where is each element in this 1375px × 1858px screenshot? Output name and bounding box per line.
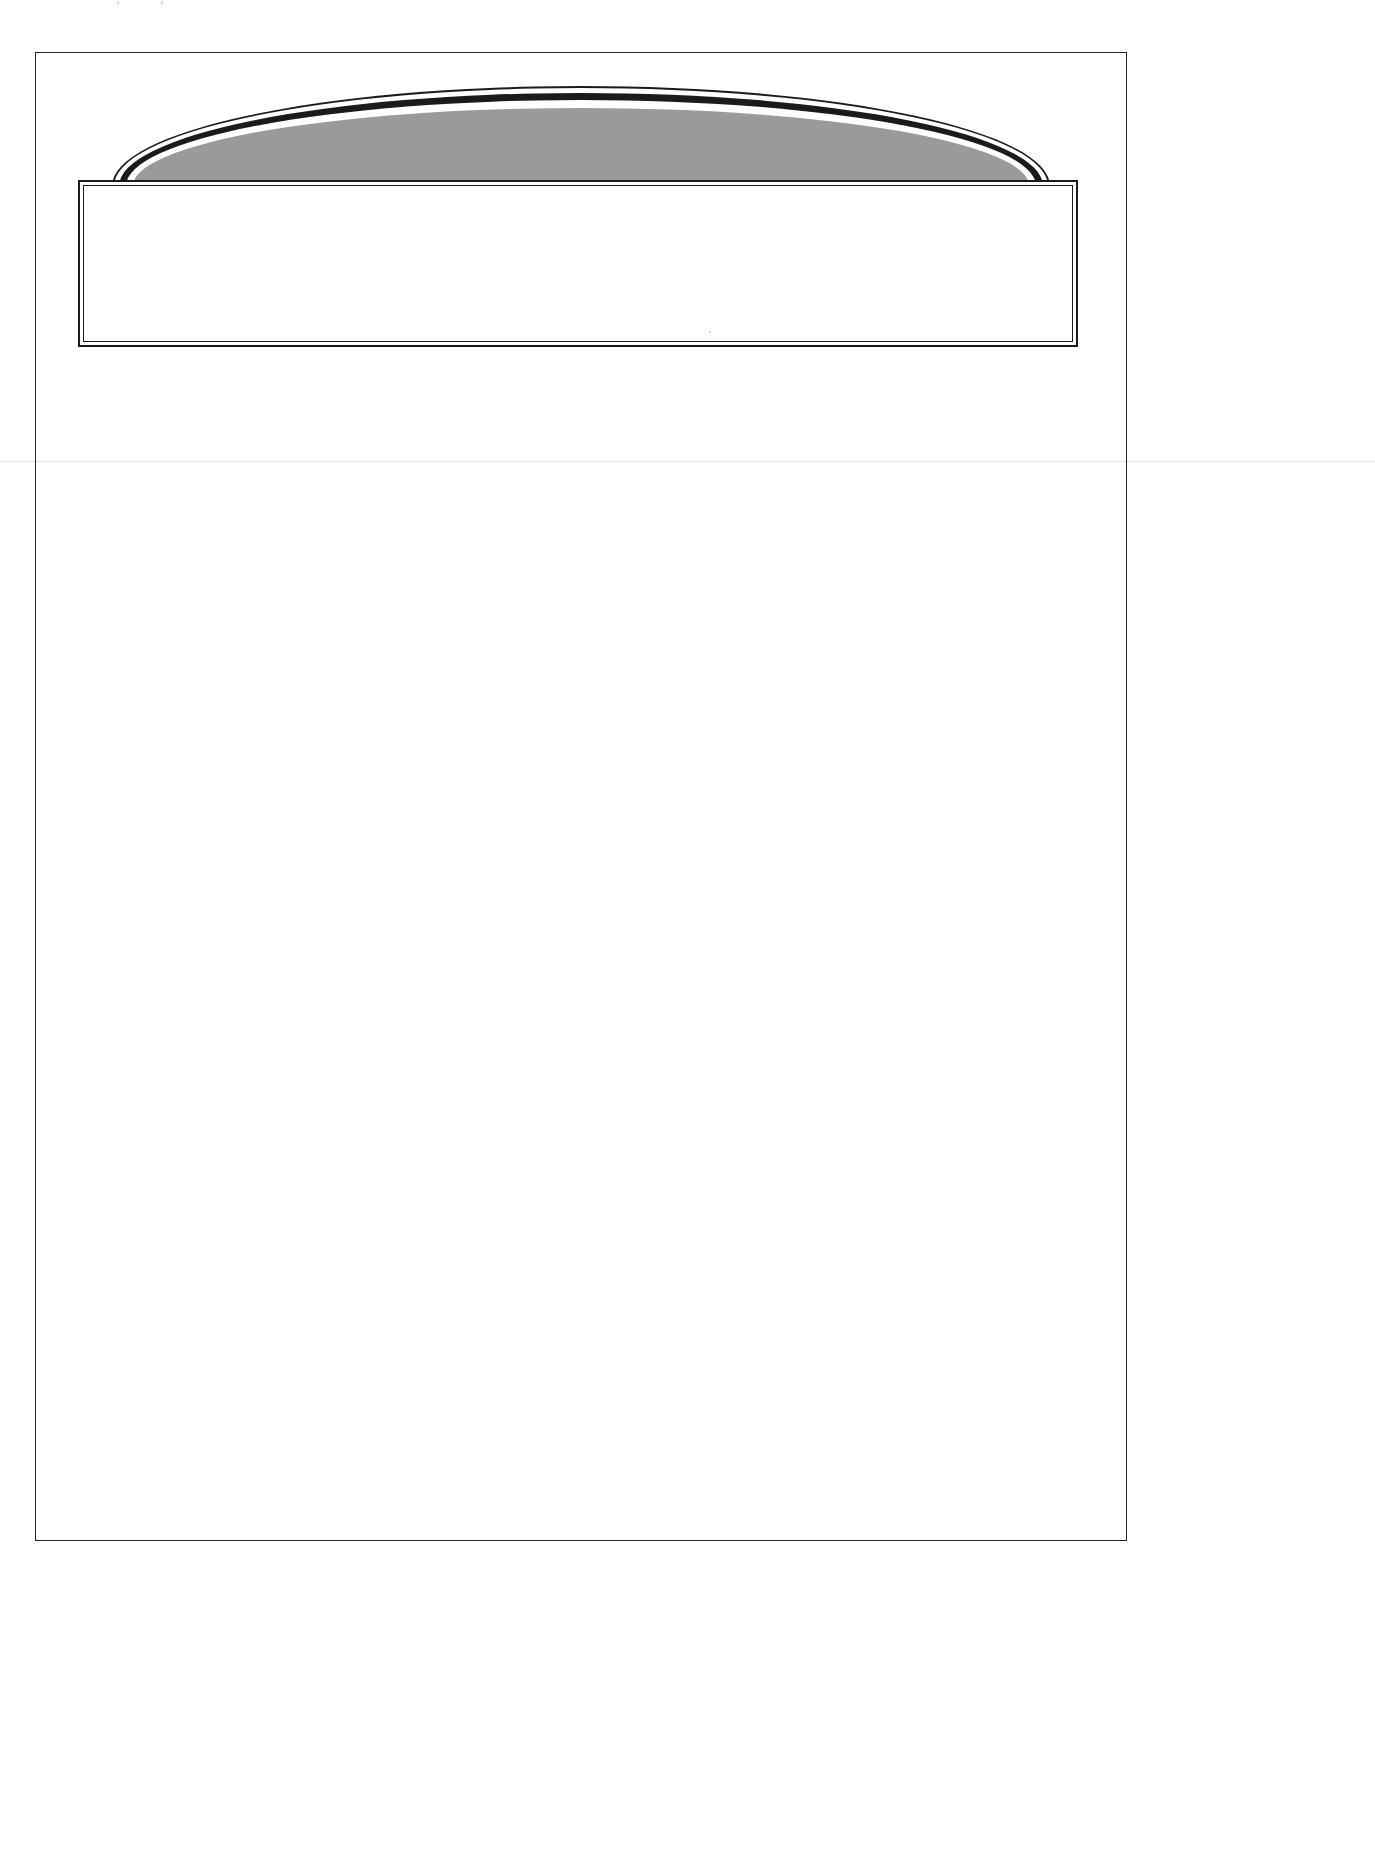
scanned-page: · ····· , ···· , ··· ·· <box>0 0 1375 1858</box>
clipped-header-text: · ····· , ···· , ··· ·· <box>64 0 211 8</box>
caption-box <box>78 180 1078 347</box>
scan-speck <box>709 331 711 333</box>
arched-cap-figure <box>112 86 1050 186</box>
caption-box-inner-rule <box>83 185 1073 342</box>
clipped-header-strip: · ····· , ···· , ··· ·· <box>0 0 1375 14</box>
caption-box-text <box>84 186 1072 341</box>
blank-drawing-area <box>37 349 1125 1539</box>
